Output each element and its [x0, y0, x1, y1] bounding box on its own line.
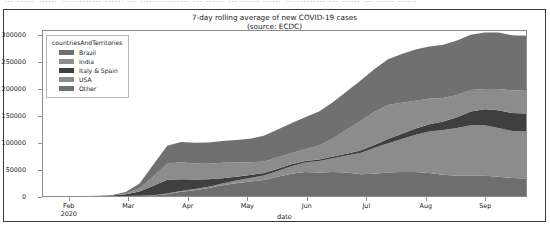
x-tick-mark [366, 197, 367, 201]
legend-entry: Other [52, 84, 123, 93]
chart-title-line-1: 7-day rolling average of new COVID-19 ca… [4, 13, 545, 22]
y-tick-mark [38, 116, 42, 117]
x-tick-label: Jun [302, 202, 312, 210]
legend-label: India [79, 58, 94, 65]
y-tick-label: 0 [22, 193, 26, 201]
x-tick-label-month: Feb [61, 202, 77, 210]
y-tick-mark [38, 143, 42, 144]
chart-title: 7-day rolling average of new COVID-19 ca… [4, 13, 545, 31]
x-tick-label: Aug [420, 202, 432, 210]
x-tick-mark [485, 197, 486, 201]
legend-entries: BrazilIndiaItaly & SpainUSAOther [52, 48, 123, 93]
x-tick-label: Mar [122, 202, 134, 210]
x-tick-label-month: Jun [302, 202, 312, 210]
legend: countriesAndTerritories BrazilIndiaItaly… [46, 35, 129, 98]
x-tick-mark [247, 197, 248, 201]
y-tick-mark [38, 197, 42, 198]
legend-swatch [59, 86, 74, 91]
legend-entry: Brazil [52, 48, 123, 57]
legend-swatch [59, 77, 74, 82]
area-series-brazil [43, 172, 526, 196]
legend-label: Other [79, 85, 96, 92]
x-tick-label-month: Mar [122, 202, 134, 210]
legend-entry: USA [52, 75, 123, 84]
legend-label: USA [79, 76, 92, 83]
y-tick-label: 250000 [2, 58, 26, 66]
x-tick-label: Sep [479, 202, 491, 210]
x-tick-mark [426, 197, 427, 201]
legend-entry: Italy & Spain [52, 66, 123, 75]
x-tick-mark [188, 197, 189, 201]
clipped-page-text-strip: … …… …… … ……… …… … …… ……… … …… … …… …… …… [0, 0, 550, 9]
legend-label: Italy & Spain [79, 67, 118, 74]
figure-frame: 7-day rolling average of new COVID-19 ca… [3, 9, 546, 222]
y-tick-mark [38, 35, 42, 36]
x-tick-label: Apr [182, 202, 193, 210]
x-tick-label-month: Sep [479, 202, 491, 210]
x-tick-label-month: Aug [420, 202, 432, 210]
legend-swatch [59, 50, 74, 55]
x-axis-label: date [42, 213, 527, 221]
x-tick-mark [307, 197, 308, 201]
y-tick-label: 100000 [2, 139, 26, 147]
x-tick-label: Jul [362, 202, 370, 210]
x-tick-label-month: May [241, 202, 254, 210]
x-tick-mark [69, 197, 70, 201]
y-tick-label: 150000 [2, 112, 26, 120]
legend-swatch [59, 68, 74, 73]
legend-swatch [59, 59, 74, 64]
x-tick-label-month: Jul [362, 202, 370, 210]
y-tick-mark [38, 89, 42, 90]
y-tick-label: 50000 [6, 166, 26, 174]
clipped-text: … …… …… … ……… …… … …… ……… … …… … …… …… …… [4, 0, 417, 4]
y-tick-mark [38, 62, 42, 63]
x-tick-label-month: Apr [182, 202, 193, 210]
x-tick-label: May [241, 202, 254, 210]
legend-entry: India [52, 57, 123, 66]
y-tick-mark [38, 170, 42, 171]
y-tick-label: 200000 [2, 85, 26, 93]
x-tick-mark [128, 197, 129, 201]
y-tick-label: 300000 [2, 31, 26, 39]
legend-label: Brazil [79, 49, 96, 56]
legend-title: countriesAndTerritories [52, 39, 123, 46]
